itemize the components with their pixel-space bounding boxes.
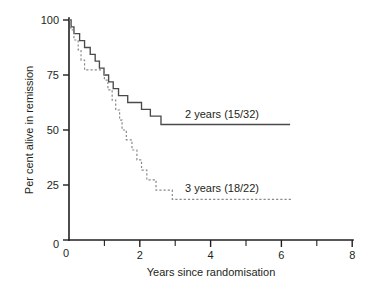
y-axis-title: Per cent alive in remission (23, 66, 35, 194)
x-tick-label-2: 2 (137, 249, 143, 261)
chart-svg: 100 75 50 25 0 0 2 4 6 8 Years since ran… (0, 0, 379, 296)
series-label-3-years: 3 years (18/22) (185, 182, 259, 194)
series-label-2-years: 2 years (15/32) (185, 108, 259, 120)
x-tick-label-6: 6 (278, 249, 284, 261)
x-axis-ticks (104, 240, 352, 247)
y-axis-tick-labels: 100 75 50 25 0 (41, 14, 59, 250)
y-tick-label-25: 25 (47, 179, 59, 191)
x-axis-tick-labels: 0 2 4 6 8 (63, 247, 355, 261)
y-tick-label-100: 100 (41, 14, 59, 26)
y-tick-label-75: 75 (47, 69, 59, 81)
x-axis-title: Years since randomisation (147, 266, 276, 278)
x-tick-label-0: 0 (63, 247, 69, 259)
y-tick-label-0: 0 (53, 238, 59, 250)
x-tick-label-4: 4 (208, 249, 214, 261)
x-tick-label-8: 8 (349, 249, 355, 261)
y-tick-label-50: 50 (47, 124, 59, 136)
y-axis-ticks (63, 20, 69, 240)
survival-chart: 100 75 50 25 0 0 2 4 6 8 Years since ran… (0, 0, 379, 296)
